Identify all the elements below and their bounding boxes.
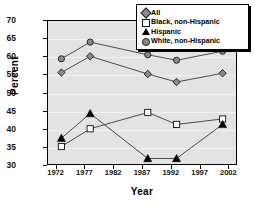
series-all bbox=[58, 53, 227, 86]
y-tick-label: 30 bbox=[0, 161, 16, 169]
legend-label: White, non-Hispanic bbox=[151, 36, 220, 45]
x-tick-mark bbox=[200, 165, 201, 169]
y-tick-label: 40 bbox=[0, 125, 16, 133]
data-point bbox=[145, 52, 151, 58]
data-point bbox=[87, 39, 93, 45]
x-tick-mark bbox=[142, 165, 143, 169]
data-point bbox=[86, 53, 93, 60]
legend-item-white-non-hispanic[interactable]: White, non-Hispanic bbox=[140, 36, 245, 45]
y-tick-label: 70 bbox=[0, 16, 16, 24]
legend-item-all[interactable]: All bbox=[140, 8, 245, 17]
data-point bbox=[86, 110, 94, 117]
x-tick-label: 2002 bbox=[208, 168, 248, 177]
data-point bbox=[58, 69, 65, 76]
series-line bbox=[61, 56, 222, 82]
data-point bbox=[219, 70, 226, 77]
data-point bbox=[144, 70, 151, 77]
data-point bbox=[173, 78, 180, 85]
series-line bbox=[61, 114, 222, 159]
legend-item-black-non-hispanic[interactable]: Black, non-Hispanic bbox=[140, 17, 245, 26]
legend-item-hispanic[interactable]: Hispanic bbox=[140, 27, 245, 36]
triangle-marker-icon bbox=[140, 27, 151, 36]
data-point bbox=[58, 56, 64, 62]
data-point bbox=[173, 121, 179, 127]
series-hispanic bbox=[57, 110, 226, 162]
chart-figure: 303540455055606570 197219771982198719921… bbox=[0, 0, 255, 213]
x-tick-mark bbox=[56, 165, 57, 169]
data-point bbox=[87, 126, 93, 132]
diamond-marker-icon bbox=[140, 8, 151, 17]
x-tick-mark bbox=[84, 165, 85, 169]
x-axis-title: Year bbox=[47, 186, 237, 197]
square-marker-icon bbox=[140, 17, 151, 26]
data-point bbox=[58, 143, 64, 149]
data-point bbox=[173, 57, 179, 63]
legend-label: Hispanic bbox=[151, 27, 181, 36]
circle-marker-icon bbox=[140, 36, 151, 45]
legend-label: Black, non-Hispanic bbox=[151, 17, 220, 26]
x-tick-mark bbox=[171, 165, 172, 169]
y-axis-title: Percent bbox=[9, 41, 20, 111]
chart-legend: All Black, non-Hispanic Hispanic White, … bbox=[136, 4, 249, 50]
y-tick-mark bbox=[43, 165, 47, 166]
x-tick-mark bbox=[113, 165, 114, 169]
legend-label: All bbox=[151, 8, 160, 17]
data-point bbox=[145, 109, 151, 115]
series-black-non-hispanic bbox=[58, 109, 225, 149]
x-tick-mark bbox=[228, 165, 229, 169]
y-tick-label: 35 bbox=[0, 143, 16, 151]
